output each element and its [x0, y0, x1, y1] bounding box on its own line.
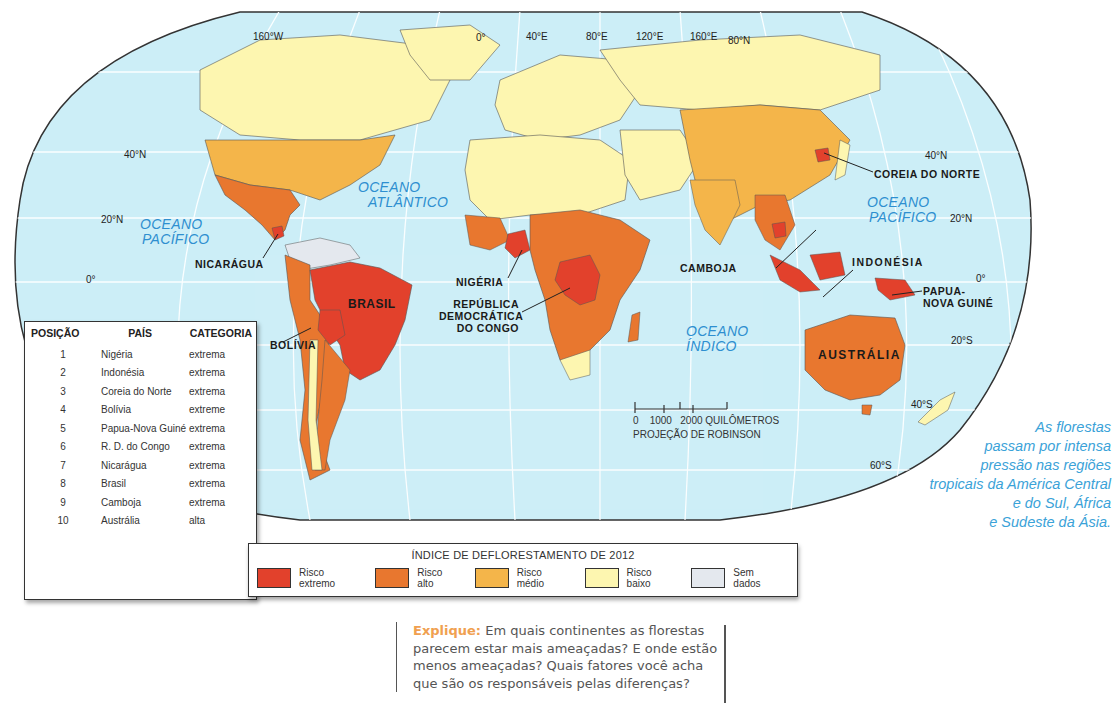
swatch-low-risk — [585, 568, 619, 588]
latitude-label: 20°N — [101, 214, 123, 225]
cell-country: Brasil — [101, 478, 189, 489]
explique-right-rule — [724, 625, 726, 703]
legend-item-low: Risco baixo — [585, 567, 676, 589]
table-row: 7Nicaráguaextrema — [25, 456, 256, 475]
latitude-label: 80°N — [728, 35, 750, 46]
ocean-label-atlantic: OCEANO ATLÂNTICO — [358, 180, 448, 210]
latitude-label: 20°N — [950, 213, 972, 224]
longitude-label: 120°E — [636, 31, 663, 42]
caption-line: pressão nas regiões — [871, 456, 1111, 475]
ocean-label-line: PACÍFICO — [867, 210, 936, 225]
legend-label: Risco baixo — [627, 567, 676, 589]
cell-position: 7 — [25, 460, 101, 471]
cell-category: extrema — [189, 386, 256, 397]
ocean-label-line: ATLÂNTICO — [358, 195, 448, 210]
table-row: 9Cambojaextrema — [25, 493, 256, 512]
cell-position: 10 — [25, 515, 101, 526]
latitude-label: 0° — [86, 274, 96, 285]
ocean-label-indian: OCEANO ÍNDICO — [686, 324, 748, 354]
swatch-no-data — [691, 568, 725, 588]
scale-tick: 2000 — [680, 415, 702, 426]
latitude-label: 40°N — [925, 150, 947, 161]
country-label-australia: AUSTRÁLIA — [818, 349, 901, 361]
longitude-label: 160°W — [253, 31, 283, 42]
ocean-label-line: OCEANO — [358, 180, 448, 195]
legend-label: Risco médio — [517, 567, 569, 589]
cell-category: extrema — [189, 349, 256, 360]
cell-position: 2 — [25, 367, 101, 378]
country-label-camboja: CAMBOJA — [680, 262, 737, 274]
cell-category: extrema — [189, 497, 256, 508]
cell-category: alta — [189, 515, 256, 526]
country-label-papua: PAPUA- NOVA GUINÉ — [923, 285, 993, 309]
table-row: 2Indonésiaextrema — [25, 364, 256, 383]
ocean-label-line: ÍNDICO — [686, 339, 748, 354]
table-row: 3Coreia do Norteextrema — [25, 382, 256, 401]
cell-position: 3 — [25, 386, 101, 397]
legend-title: ÍNDICE DE DEFLORESTAMENTO DE 2012 — [249, 549, 797, 561]
scale-unit: QUILÔMETROS — [705, 415, 779, 426]
legend-items: Risco extremo Risco alto Risco médio Ris… — [249, 567, 797, 589]
cell-country: R. D. do Congo — [101, 441, 189, 452]
swatch-medium-risk — [475, 568, 509, 588]
cell-position: 5 — [25, 423, 101, 434]
country-label-line: NOVA GUINÉ — [923, 297, 993, 309]
legend-item-extreme: Risco extremo — [257, 567, 359, 589]
table-row: 10Austráliaalta — [25, 512, 256, 531]
latitude-label: 20°S — [951, 335, 973, 346]
cell-country: Nigéria — [101, 349, 189, 360]
latitude-label: 0° — [976, 273, 986, 284]
legend-label: Risco alto — [417, 567, 458, 589]
scale-tick: 1000 — [650, 415, 672, 426]
cell-country: Coreia do Norte — [101, 386, 189, 397]
scale-labels: 0 1000 2000 QUILÔMETROS — [633, 415, 779, 426]
ocean-label-pacific-west: OCEANO PACÍFICO — [140, 217, 209, 247]
legend-item-high: Risco alto — [375, 567, 458, 589]
header-category: CATEGORIA — [187, 327, 256, 345]
cell-category: extrema — [189, 367, 256, 378]
ocean-label-line: OCEANO — [867, 195, 936, 210]
projection-label: PROJEÇÃO DE ROBINSON — [633, 429, 779, 440]
country-label-nigeria: NIGÉRIA — [456, 276, 503, 288]
table-header: POSIÇÃO PAÍS CATEGORIA — [25, 322, 256, 345]
cell-position: 8 — [25, 478, 101, 489]
tasmania — [862, 405, 872, 415]
cell-position: 6 — [25, 441, 101, 452]
north-korea-shape — [815, 148, 830, 162]
map-caption: As florestas passam por intensa pressão … — [871, 418, 1111, 532]
latitude-label: 40°S — [911, 399, 933, 410]
longitude-label: 0° — [476, 32, 486, 43]
explique-box: Explique: Em quais continentes as flores… — [396, 622, 728, 692]
cell-category: extrema — [189, 441, 256, 452]
caption-line: e Sudeste da Ásia. — [871, 513, 1111, 532]
cell-category: extrema — [189, 423, 256, 434]
country-label-coreia-do-norte: COREIA DO NORTE — [874, 168, 980, 180]
cell-position: 1 — [25, 349, 101, 360]
cell-country: Papua-Nova Guiné — [101, 423, 189, 434]
cell-country: Bolívia — [101, 404, 189, 415]
country-label-indonesia: INDONÉSIA — [852, 256, 924, 268]
table-row: 5Papua-Nova Guinéextrema — [25, 419, 256, 438]
ocean-label-line: PACÍFICO — [140, 232, 209, 247]
longitude-label: 80°E — [586, 31, 608, 42]
swatch-high-risk — [375, 568, 409, 588]
caption-line: tropicais da América Central — [871, 475, 1111, 494]
ocean-label-line: OCEANO — [140, 217, 209, 232]
longitude-label: 40°E — [526, 31, 548, 42]
cell-country: Camboja — [101, 497, 189, 508]
legend-item-no-data: Sem dados — [691, 567, 781, 589]
scale-ruler-icon — [633, 399, 743, 415]
latitude-label: 40°N — [124, 149, 146, 160]
map-legend: ÍNDICE DE DEFLORESTAMENTO DE 2012 Risco … — [248, 543, 798, 597]
country-label-line: DEMOCRÁTICA — [439, 310, 519, 322]
country-label-line: DO CONGO — [439, 322, 519, 334]
cell-category: extrema — [189, 460, 256, 471]
country-label-rdc: REPÚBLICA DEMOCRÁTICA DO CONGO — [439, 298, 519, 334]
country-label-line: PAPUA- — [923, 285, 993, 297]
cell-country: Nicarágua — [101, 460, 189, 471]
cell-category: extreme — [189, 404, 256, 415]
ocean-label-line: OCEANO — [686, 324, 748, 339]
country-label-brasil: BRASIL — [348, 298, 396, 310]
cell-country: Indonésia — [101, 367, 189, 378]
table-row: 6R. D. do Congoextrema — [25, 438, 256, 457]
